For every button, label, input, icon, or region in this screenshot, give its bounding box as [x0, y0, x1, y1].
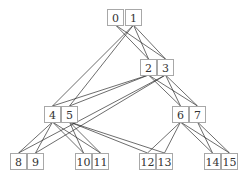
node-label: 6 — [177, 109, 184, 122]
edge-0-3 — [116, 25, 166, 59]
edges-layer — [19, 25, 230, 153]
node-5: 5 — [62, 107, 78, 123]
node-label: 15 — [223, 156, 237, 169]
node-label: 14 — [206, 156, 220, 169]
edge-1-2 — [134, 25, 149, 59]
edge-6-14 — [181, 122, 213, 153]
edge-7-15 — [198, 122, 230, 153]
node-0: 0 — [108, 10, 124, 26]
node-4: 4 — [45, 107, 61, 123]
node-1: 1 — [126, 10, 142, 26]
node-3: 3 — [158, 60, 174, 76]
node-13: 13 — [157, 154, 173, 170]
node-label: 5 — [66, 109, 73, 122]
edge-2-4 — [53, 75, 149, 106]
edge-1-3 — [134, 25, 166, 59]
edge-6-13 — [165, 122, 181, 153]
node-8: 8 — [11, 154, 27, 170]
node-label: 4 — [49, 109, 56, 122]
node-label: 13 — [158, 156, 172, 169]
node-label: 2 — [145, 62, 152, 75]
graph-diagram: 0123456789101112131415 — [0, 0, 249, 183]
edge-2-6 — [149, 75, 181, 106]
node-label: 7 — [194, 109, 201, 122]
edge-7-14 — [198, 122, 213, 153]
edge-1-5 — [70, 25, 134, 106]
node-7: 7 — [190, 107, 206, 123]
node-label: 10 — [77, 156, 91, 169]
node-label: 8 — [15, 156, 22, 169]
node-label: 0 — [112, 12, 119, 25]
edge-5-13 — [70, 122, 165, 153]
node-10: 10 — [76, 154, 92, 170]
edge-4-9 — [36, 122, 53, 153]
node-label: 12 — [141, 156, 155, 169]
node-label: 9 — [32, 156, 39, 169]
node-9: 9 — [28, 154, 44, 170]
node-2: 2 — [141, 60, 157, 76]
edge-5-11 — [70, 122, 101, 153]
edge-6-12 — [148, 122, 181, 153]
node-label: 1 — [130, 12, 137, 25]
edge-3-6 — [166, 75, 181, 106]
node-15: 15 — [222, 154, 238, 170]
node-6: 6 — [173, 107, 189, 123]
node-12: 12 — [140, 154, 156, 170]
edge-3-7 — [166, 75, 198, 106]
edge-1-4 — [53, 25, 134, 106]
edge-3-8 — [19, 75, 166, 153]
node-11: 11 — [93, 154, 109, 170]
node-label: 3 — [162, 62, 169, 75]
node-label: 11 — [94, 156, 108, 169]
node-14: 14 — [205, 154, 221, 170]
